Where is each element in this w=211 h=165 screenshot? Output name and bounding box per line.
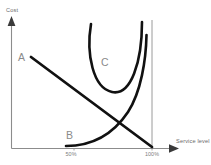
series-c-curve: [89, 22, 142, 92]
y-axis-title: Cost: [6, 7, 18, 13]
x-axis-title: Service level: [176, 138, 210, 144]
series-a-label: A: [18, 52, 25, 63]
y-axis: [8, 16, 16, 149]
x-tick-label-50-percent: 50%: [62, 151, 80, 157]
cost-service-level-chart: Cost Service level 50% 100% A B C: [0, 0, 211, 165]
series-c-label: C: [101, 57, 109, 68]
x-tick-label-100-percent: 100%: [142, 151, 162, 157]
x-axis-arrowhead-icon: [169, 144, 179, 152]
series-b-label: B: [66, 130, 73, 141]
y-axis-arrowhead-icon: [8, 16, 16, 26]
